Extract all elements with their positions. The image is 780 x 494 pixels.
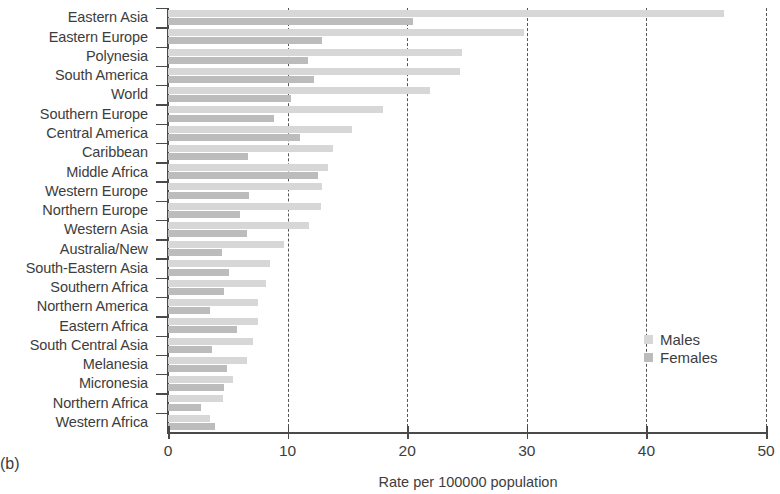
x-axis-tick-mark [766, 426, 768, 439]
bar-females [168, 249, 222, 256]
category-label: Northern America [0, 297, 152, 316]
category-label: Micronesia [0, 374, 152, 393]
legend-label: Males [660, 332, 700, 347]
gridline [766, 8, 767, 432]
bar-females [168, 365, 227, 372]
category-axis-labels: Eastern AsiaEastern EuropePolynesiaSouth… [0, 8, 152, 432]
bar-females [168, 172, 318, 179]
bar-males [168, 10, 724, 17]
bar-females [168, 153, 248, 160]
bar-males [168, 222, 309, 229]
category-label: Western Europe [0, 181, 152, 200]
category-label: Western Africa [0, 413, 152, 432]
bar-row [168, 393, 766, 412]
bar-males [168, 318, 258, 325]
bar-females [168, 230, 247, 237]
bar-row [168, 85, 766, 104]
bar-row [168, 162, 766, 181]
bar-males [168, 299, 258, 306]
x-axis-tick-label: 20 [399, 442, 416, 460]
chart-legend: MalesFemales [644, 332, 718, 365]
bar-females [168, 307, 210, 314]
x-axis-tick-label: 30 [518, 442, 535, 460]
bar-row [168, 258, 766, 277]
bar-row [168, 297, 766, 316]
plot-area [168, 8, 766, 432]
bar-row [168, 104, 766, 123]
category-label: Northern Africa [0, 393, 152, 412]
x-axis-tick-mark [288, 426, 290, 439]
legend-swatch-icon [644, 335, 653, 344]
category-label: South America [0, 66, 152, 85]
bar-row [168, 239, 766, 258]
category-label: South Central Asia [0, 336, 152, 355]
bar-females [168, 37, 322, 44]
x-axis-tick-label: 10 [279, 442, 296, 460]
bar-males [168, 87, 430, 94]
bar-row [168, 413, 766, 432]
category-label: Australia/New [0, 239, 152, 258]
x-axis-tick-mark [527, 426, 529, 439]
bar-females [168, 192, 249, 199]
legend-label: Females [660, 350, 718, 365]
bar-males [168, 49, 462, 56]
bar-males [168, 395, 223, 402]
category-label: Melanesia [0, 355, 152, 374]
category-label: Southern Europe [0, 104, 152, 123]
bar-females [168, 18, 413, 25]
bar-females [168, 404, 201, 411]
bar-males [168, 29, 524, 36]
bar-males [168, 106, 383, 113]
bar-females [168, 95, 291, 102]
bar-females [168, 115, 274, 122]
legend-item: Females [644, 350, 718, 365]
bar-rows [168, 8, 766, 432]
bar-row [168, 27, 766, 46]
category-label: Eastern Asia [0, 8, 152, 27]
legend-swatch-icon [644, 353, 653, 362]
x-axis-ticks: 01020304050 [168, 432, 768, 472]
bar-row [168, 47, 766, 66]
bar-males [168, 357, 247, 364]
bar-females [168, 384, 224, 391]
bar-row [168, 278, 766, 297]
bar-females [168, 346, 212, 353]
x-axis-tick-label: 0 [164, 442, 173, 460]
bar-males [168, 68, 460, 75]
bar-females [168, 326, 237, 333]
bar-females [168, 211, 240, 218]
bar-males [168, 415, 210, 422]
category-label: Central America [0, 124, 152, 143]
category-label: Eastern Europe [0, 27, 152, 46]
bar-row [168, 8, 766, 27]
x-axis-tick-mark [646, 426, 648, 439]
bar-males [168, 260, 270, 267]
bar-row [168, 220, 766, 239]
x-axis-tick-label: 40 [638, 442, 655, 460]
bar-males [168, 183, 322, 190]
category-label: Southern Africa [0, 278, 152, 297]
bar-females [168, 134, 300, 141]
category-label: Northern Europe [0, 201, 152, 220]
category-label: World [0, 85, 152, 104]
bar-row [168, 374, 766, 393]
bar-females [168, 76, 314, 83]
bar-row [168, 66, 766, 85]
category-label: Middle Africa [0, 162, 152, 181]
x-axis-title: Rate per 100000 population [168, 474, 768, 490]
bar-males [168, 164, 328, 171]
category-label: Caribbean [0, 143, 152, 162]
category-label: Polynesia [0, 47, 152, 66]
bar-females [168, 423, 215, 430]
category-label: Eastern Africa [0, 316, 152, 335]
bar-chart-figure: Eastern AsiaEastern EuropePolynesiaSouth… [0, 0, 780, 494]
bar-males [168, 280, 266, 287]
x-axis-tick-label: 50 [757, 442, 774, 460]
bar-females [168, 269, 229, 276]
bar-row [168, 201, 766, 220]
legend-item: Males [644, 332, 718, 347]
category-label: South-Eastern Asia [0, 258, 152, 277]
x-axis-tick-mark [168, 426, 170, 439]
bar-females [168, 57, 308, 64]
bar-males [168, 338, 253, 345]
